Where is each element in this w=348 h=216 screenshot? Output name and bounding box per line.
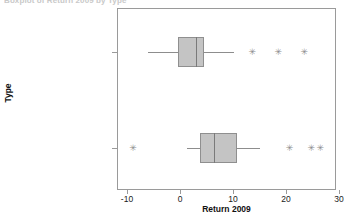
x-axis-tick-label: 0 bbox=[165, 194, 195, 204]
x-axis-tick-label: 20 bbox=[271, 194, 301, 204]
x-axis-tick-label: 30 bbox=[324, 194, 348, 204]
y-axis-title: Type bbox=[3, 73, 13, 113]
x-axis-tick-label: 10 bbox=[218, 194, 248, 204]
y-axis-tick bbox=[112, 52, 117, 53]
chart-title-clipped: Boxplot of Return 2009 by Type bbox=[4, 0, 336, 5]
outlier-marker: ✳ bbox=[301, 49, 308, 56]
whisker-low bbox=[148, 52, 178, 53]
outlier-marker: ✳ bbox=[286, 145, 293, 152]
whisker-high bbox=[204, 52, 234, 53]
x-axis-title: Return 2009 bbox=[117, 204, 336, 214]
outlier-marker: ✳ bbox=[249, 49, 256, 56]
box-iqr bbox=[200, 133, 237, 163]
outlier-marker: ✳ bbox=[275, 49, 282, 56]
median-line bbox=[214, 133, 215, 163]
whisker-high bbox=[237, 148, 260, 149]
median-line bbox=[196, 37, 197, 67]
whisker-low bbox=[187, 148, 200, 149]
box-iqr bbox=[178, 37, 204, 67]
x-axis-tick-label: -10 bbox=[112, 194, 142, 204]
outlier-marker: ✳ bbox=[307, 145, 314, 152]
outlier-marker: ✳ bbox=[316, 145, 323, 152]
outlier-marker: ✳ bbox=[129, 145, 136, 152]
y-axis-tick bbox=[112, 148, 117, 149]
